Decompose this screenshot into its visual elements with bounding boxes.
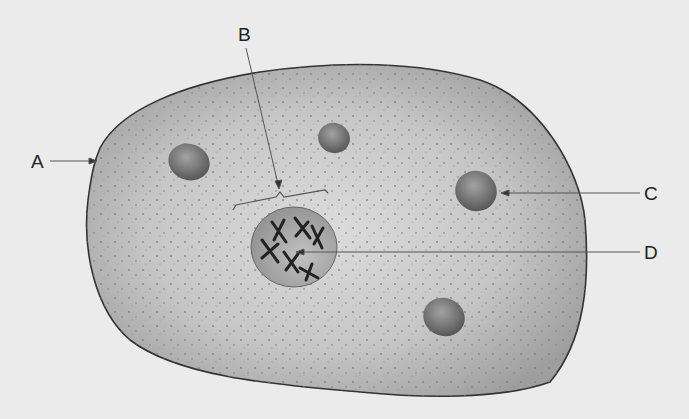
label-a: A bbox=[31, 152, 44, 171]
label-c: C bbox=[644, 184, 658, 203]
cell-diagram bbox=[0, 0, 689, 419]
cell-body bbox=[87, 64, 587, 396]
nucleus bbox=[251, 207, 337, 287]
label-d: D bbox=[644, 243, 658, 262]
label-b: B bbox=[238, 25, 251, 44]
